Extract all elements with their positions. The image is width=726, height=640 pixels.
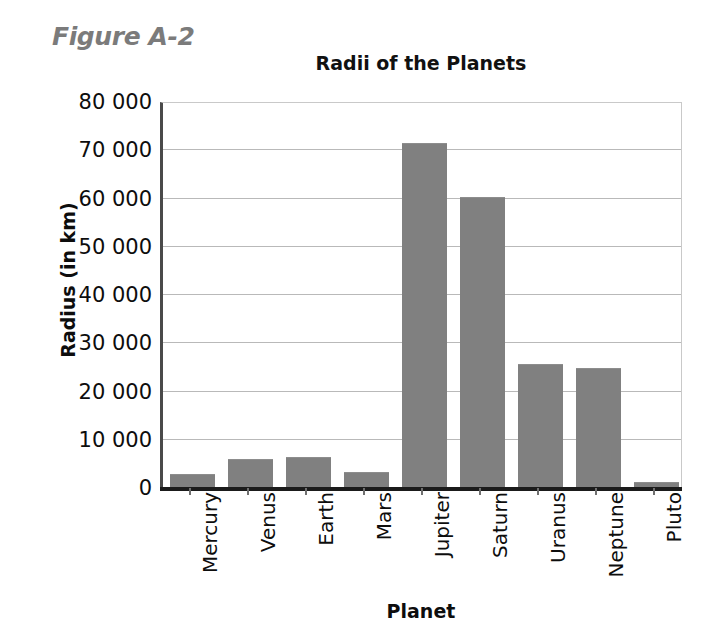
y-tick-label: 0 bbox=[56, 476, 152, 500]
y-tick-label: 80 000 bbox=[56, 90, 152, 114]
x-tick-mark bbox=[537, 488, 539, 495]
chart-title: Radii of the Planets bbox=[160, 52, 682, 74]
x-tick-label: Jupiter bbox=[430, 492, 454, 557]
x-tick-mark bbox=[479, 488, 481, 495]
y-tick-label: 60 000 bbox=[56, 187, 152, 211]
bar bbox=[286, 457, 331, 488]
bar bbox=[518, 364, 563, 488]
x-axis-title: Planet bbox=[160, 600, 682, 622]
x-tick-label: Earth bbox=[314, 492, 338, 546]
x-tick-label: Mercury bbox=[198, 492, 222, 573]
y-tick-label: 50 000 bbox=[56, 235, 152, 259]
bar bbox=[170, 474, 215, 488]
x-tick-mark bbox=[421, 488, 423, 495]
x-tick-mark bbox=[189, 488, 191, 495]
x-tick-label: Saturn bbox=[488, 492, 512, 558]
x-tick-mark bbox=[595, 488, 597, 495]
x-axis-ticks: MercuryVenusEarthMarsJupiterSaturnUranus… bbox=[160, 492, 682, 600]
figure-label: Figure A-2 bbox=[52, 22, 194, 51]
bar bbox=[576, 368, 621, 488]
x-tick-mark bbox=[247, 488, 249, 495]
x-tick-label: Uranus bbox=[546, 492, 570, 563]
y-axis-ticks: 010 00020 00030 00040 00050 00060 00070 … bbox=[52, 102, 152, 488]
bar bbox=[344, 472, 389, 488]
x-tick-label: Pluto bbox=[662, 492, 686, 542]
y-tick-label: 30 000 bbox=[56, 331, 152, 355]
y-tick-label: 70 000 bbox=[56, 138, 152, 162]
figure-container: Figure A-2 Radii of the Planets Radius (… bbox=[0, 0, 726, 640]
x-tick-label: Venus bbox=[256, 492, 280, 552]
x-tick-mark bbox=[653, 488, 655, 495]
x-tick-mark bbox=[363, 488, 365, 495]
x-tick-mark bbox=[305, 488, 307, 495]
y-tick-label: 20 000 bbox=[56, 380, 152, 404]
y-tick-label: 10 000 bbox=[56, 428, 152, 452]
y-tick-label: 40 000 bbox=[56, 283, 152, 307]
x-tick-label: Neptune bbox=[604, 492, 628, 577]
x-tick-label: Mars bbox=[372, 492, 396, 540]
plot-area bbox=[160, 102, 682, 488]
bar bbox=[402, 143, 447, 488]
bar bbox=[228, 459, 273, 488]
bar bbox=[460, 197, 505, 488]
